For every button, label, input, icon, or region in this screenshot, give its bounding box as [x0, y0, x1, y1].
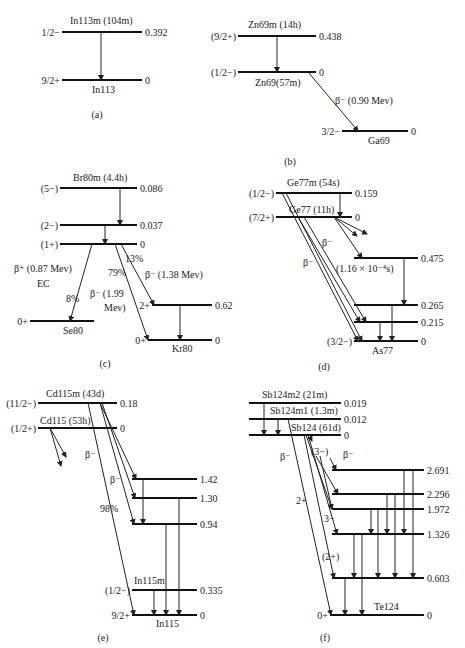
energy-label: 1.30	[200, 493, 218, 504]
spin-parity-label: 2+	[139, 300, 150, 311]
spin-parity-label: 0+	[17, 316, 28, 327]
decay-annotation: β⁻ (1.38 Mev)	[145, 269, 203, 281]
energy-label: 0	[140, 239, 145, 250]
spin-parity-label: 9/2+	[112, 610, 131, 621]
decay-annotation: β⁻	[85, 449, 95, 460]
energy-label: 1.972	[427, 504, 450, 515]
nuclide-label: Ga69	[368, 135, 390, 146]
decay-annotation: (2+)	[322, 551, 339, 563]
decay-annotation: β⁻	[343, 449, 353, 460]
energy-label: 0.335	[200, 585, 223, 596]
nuclide-label: Zn69(57m)	[255, 77, 301, 89]
spin-parity-label: 0+	[317, 610, 328, 621]
energy-label: 0.215	[421, 317, 444, 328]
panel-caption: (c)	[99, 358, 110, 370]
panel-caption: (e)	[97, 632, 108, 644]
decay-annotation: 8%	[66, 293, 79, 304]
energy-label: 0	[145, 75, 150, 86]
decay-annotation: 98%	[100, 503, 118, 514]
energy-label: 0	[215, 335, 220, 346]
energy-label: 0.94	[200, 519, 218, 530]
energy-label: 0.159	[355, 188, 378, 199]
panel-caption: (d)	[318, 361, 330, 373]
panel-caption: (a)	[91, 109, 102, 121]
panel-caption: (b)	[284, 156, 296, 168]
spin-parity-label: (7/2+)	[249, 212, 274, 224]
energy-label: 2.691	[427, 465, 450, 476]
transition-arrow	[334, 217, 367, 234]
transition-arrow	[310, 437, 312, 441]
energy-label: 0.603	[427, 573, 450, 584]
nuclide-label: In115m	[134, 575, 165, 586]
spin-parity-label: 1/2−	[42, 27, 61, 38]
energy-label: 0	[120, 423, 125, 434]
panel-caption: (f)	[320, 632, 330, 644]
panel-c: (5−)0.086Br80m (4.4h)(2−)0.037(1+)00+Se8…	[14, 172, 233, 370]
panel-b: (9/2+)0.438Zn69m (14h)(1/2−)0Zn69(57m)3/…	[211, 19, 416, 168]
spin-parity-label: (1/2−)	[211, 67, 236, 79]
nuclide-label: Cd115 (53h)	[40, 415, 90, 427]
nuclide-label: Ge77m (54s)	[287, 177, 340, 189]
nuclide-label: Sb124 (61d)	[291, 422, 341, 434]
decay-annotation: β⁻ (0.90 Mev)	[335, 95, 393, 107]
decay-annotation: β⁻	[110, 474, 120, 485]
spin-parity-label: 0+	[135, 335, 146, 346]
spin-parity-label: (9/2+)	[211, 31, 236, 43]
nuclide-label: Cd115m (43d)	[46, 388, 104, 400]
energy-label: 0	[319, 67, 324, 78]
spin-parity-label: (1/2−)	[105, 585, 130, 597]
transition-arrow	[70, 244, 92, 321]
decay-annotation: β⁻	[280, 451, 290, 462]
energy-label: 0.086	[140, 183, 163, 194]
panels-container: 1/2−0.392In113m (104m)9/2+0In113(a)(9/2+…	[6, 15, 449, 644]
transition-arrow	[50, 428, 61, 466]
energy-label: 0.62	[215, 300, 233, 311]
nuclide-label: Zn69m (14h)	[248, 19, 301, 31]
nuclide-label: In113m (104m)	[70, 15, 133, 27]
nuclide-label: Sb124m2 (21m)	[262, 389, 327, 401]
nuclide-label: Kr80	[172, 343, 193, 354]
energy-label: 0.037	[140, 220, 163, 231]
decay-annotation: 79%	[108, 267, 126, 278]
nuclide-label: Br80m (4.4h)	[73, 172, 127, 184]
decay-annotation: EC	[37, 278, 50, 289]
energy-label: 0.438	[319, 31, 342, 42]
decay-annotation: 3−	[324, 513, 335, 524]
spin-parity-label: (1/2+)	[11, 423, 36, 435]
transition-arrow	[50, 428, 66, 457]
energy-label: 0	[421, 336, 426, 347]
spin-parity-label: (3/2−)	[327, 336, 352, 348]
spin-parity-label: (5−)	[41, 183, 58, 195]
decay-annotation: β⁺ (0.87 Mev)	[14, 263, 72, 275]
energy-label: 2.296	[427, 489, 450, 500]
energy-label: 0	[344, 430, 349, 441]
nuclide-label: Sb124m1 (1.3m)	[270, 405, 338, 417]
transition-arrow	[334, 217, 362, 258]
panel-d: (1/2−)0.159Ge77m (54s)(7/2+)0Ge77 (11h)0…	[249, 177, 444, 373]
nuclide-label: Te124	[374, 601, 399, 612]
energy-label: 0.012	[344, 414, 367, 425]
decay-annotation: (3−)	[311, 446, 328, 458]
decay-annotation: β⁻ (1.99	[90, 288, 124, 300]
spin-parity-label: 9/2+	[42, 75, 61, 86]
nuclide-label: Se80	[63, 325, 83, 336]
energy-label: 0	[200, 610, 205, 621]
decay-annotation: (1.16 × 10⁻⁴s)	[336, 263, 393, 275]
spin-parity-label: (1/2−)	[249, 188, 274, 200]
energy-label: 0.475	[421, 253, 444, 264]
spin-parity-label: (2−)	[41, 220, 58, 232]
decay-annotation: β⁻	[303, 257, 313, 268]
nuclide-label: In113	[92, 84, 115, 95]
panel-f: 0.019Sb124m2 (21m)0.012Sb124m1 (1.3m)0Sb…	[249, 389, 450, 644]
energy-label: 0	[355, 212, 360, 223]
nuclide-label: As77	[372, 345, 393, 356]
energy-label: 0.18	[120, 398, 138, 409]
nuclide-label: In115	[156, 618, 179, 629]
energy-label: 0.392	[145, 27, 168, 38]
decay-annotation: 2+	[296, 495, 307, 506]
decay-annotation: Mev)	[104, 302, 126, 314]
nuclide-label: Ge77 (11h)	[289, 204, 334, 216]
energy-label: 0.019	[344, 398, 367, 409]
panel-e: (11/2−)0.18Cd115m (43d)(1/2+)0Cd115 (53h…	[6, 388, 222, 644]
decay-scheme-figure: 1/2−0.392In113m (104m)9/2+0In113(a)(9/2+…	[0, 0, 465, 648]
